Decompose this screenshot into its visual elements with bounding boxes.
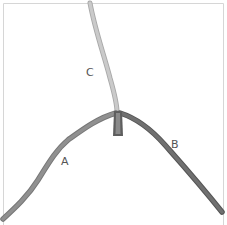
string-diagram: C A B (0, 0, 227, 225)
string-b (120, 113, 222, 212)
string-a (3, 113, 116, 219)
label-a: A (61, 155, 69, 168)
label-b: B (171, 138, 179, 151)
knot (113, 111, 123, 136)
label-c: C (86, 66, 94, 79)
string-c (90, 3, 117, 112)
